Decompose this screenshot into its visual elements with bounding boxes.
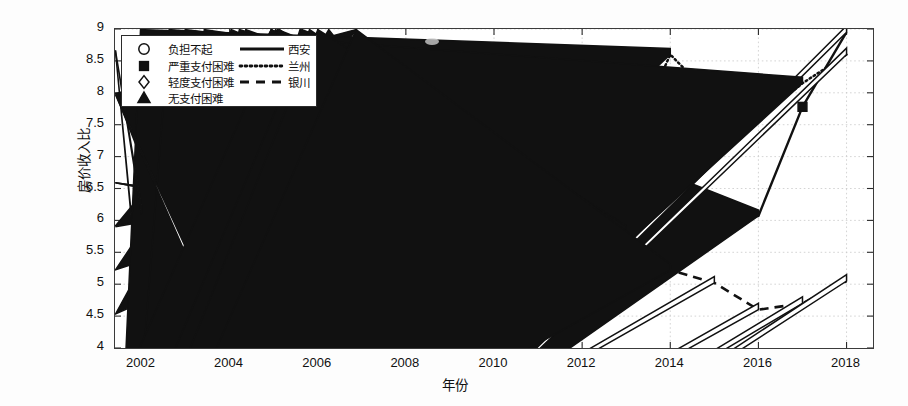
y-tick-label: 8.5: [0, 51, 104, 66]
y-axis-title: 房价收入比: [73, 128, 93, 193]
y-tick-label: 4: [0, 338, 104, 353]
chart-figure: 44.555.566.577.588.59 200220042006200820…: [0, 0, 908, 406]
scan-artifact: [425, 38, 439, 45]
x-axis-title: 年份: [442, 374, 468, 394]
circle-open-marker: [139, 44, 149, 54]
square-filled-marker: [140, 62, 149, 71]
legend-marker-2: [139, 76, 149, 89]
y-tick-label: 4.5: [0, 306, 104, 321]
legend-label-银川: 银川: [288, 74, 310, 90]
y-tick-label: 8: [0, 83, 104, 98]
legend-marker-1: [140, 62, 149, 71]
x-tick-label: 2016: [737, 355, 777, 370]
y-tick-label: 5.5: [0, 242, 104, 257]
y-tick-label: 9: [0, 19, 104, 34]
marker-square: [798, 102, 807, 111]
x-tick-label: 2004: [209, 355, 249, 370]
legend-label-circle: 负担不起: [168, 41, 212, 57]
x-tick-label: 2010: [473, 355, 513, 370]
x-tick-label: 2006: [297, 355, 337, 370]
x-tick-label: 2014: [649, 355, 689, 370]
triangle-filled-marker: [138, 92, 150, 103]
legend-label-西安: 西安: [288, 41, 310, 57]
y-tick-label: 5: [0, 274, 104, 289]
legend-label-triangle: 无支付困难: [168, 90, 223, 106]
x-tick-label: 2002: [120, 355, 160, 370]
legend[interactable]: 负担不起严重支付困难轻度支付困难无支付困难西安兰州银川: [121, 35, 317, 107]
x-tick-label: 2012: [561, 355, 601, 370]
diamond-open-marker: [139, 76, 149, 89]
legend-label-square: 严重支付困难: [168, 58, 234, 74]
legend-label-兰州: 兰州: [288, 58, 310, 74]
legend-marker-0: [139, 44, 149, 54]
x-tick-label: 2018: [826, 355, 866, 370]
x-tick-label: 2008: [385, 355, 425, 370]
legend-marker-3: [138, 92, 150, 103]
legend-label-diamond: 轻度支付困难: [168, 74, 234, 90]
y-tick-label: 6: [0, 210, 104, 225]
